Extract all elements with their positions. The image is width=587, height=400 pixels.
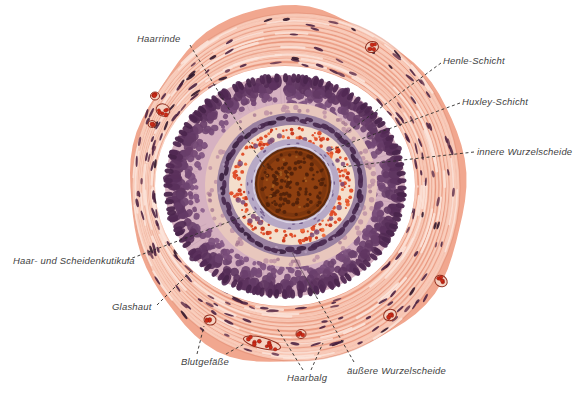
- histology-figure: Haarrinde Henle-Schicht Huxley-Schicht i…: [0, 0, 587, 400]
- label-aeussere-wurzelscheide: äußere Wurzelscheide: [347, 365, 446, 376]
- label-innere-wurzelscheide: innere Wurzelscheide: [477, 146, 572, 157]
- label-henle-schicht: Henle-Schicht: [443, 55, 505, 66]
- label-haarbalg: Haarbalg: [287, 372, 327, 383]
- label-huxley-schicht: Huxley-Schicht: [462, 96, 528, 107]
- haarrinde-hair-cortex: [256, 148, 330, 220]
- label-glashaut: Glashaut: [112, 301, 152, 312]
- label-blutgefaesse: Blutgefäße: [181, 356, 229, 367]
- label-haar-und-scheidenkutikula: Haar- und Scheidenkutikula: [13, 255, 135, 266]
- label-haarrinde: Haarrinde: [137, 33, 181, 44]
